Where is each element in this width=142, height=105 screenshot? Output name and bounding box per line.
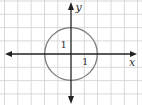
- coordinate-plane-figure: y x 1 1: [0, 0, 142, 105]
- coordinate-plane-svg: y x 1 1: [0, 0, 142, 105]
- y-axis-down-arrow-icon: [68, 96, 74, 104]
- x-axis-left-arrow-icon: [5, 51, 12, 57]
- radius-label-lower: 1: [82, 56, 88, 67]
- y-axis: [68, 2, 74, 104]
- radius-label-upper: 1: [61, 39, 67, 50]
- y-axis-label: y: [75, 1, 83, 14]
- y-axis-up-arrow-icon: [68, 2, 74, 10]
- x-axis-label: x: [129, 56, 136, 69]
